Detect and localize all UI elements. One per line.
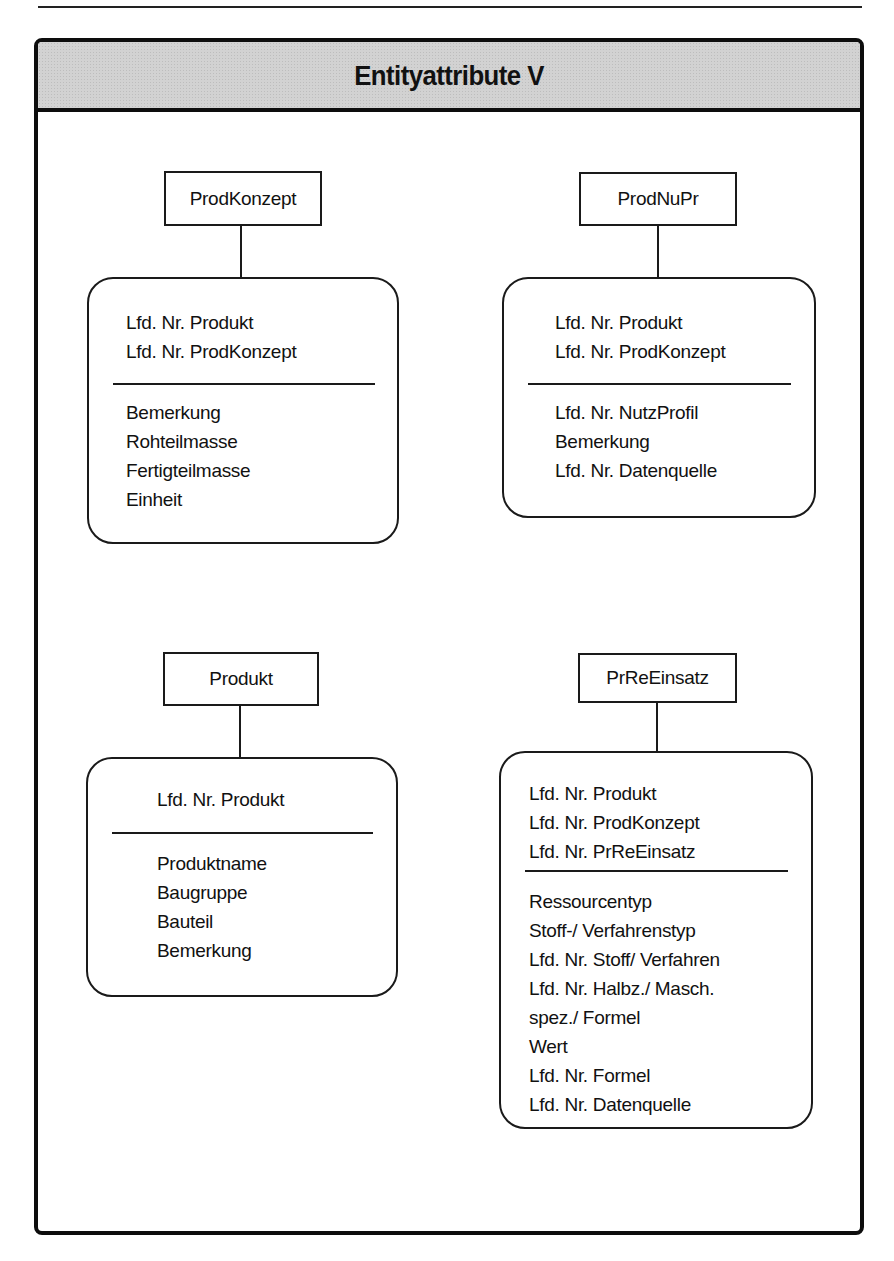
page-top-rule — [38, 6, 862, 8]
attribute-box-prreeinsatz: Lfd. Nr. Produkt Lfd. Nr. ProdKonzept Lf… — [499, 751, 813, 1129]
key-attribute-list: Lfd. Nr. Produkt Lfd. Nr. ProdKonzept — [555, 308, 725, 366]
attribute-list: Lfd. Nr. NutzProfil Bemerkung Lfd. Nr. D… — [555, 398, 717, 485]
attribute-box-prodkonzept: Lfd. Nr. Produkt Lfd. Nr. ProdKonzept Be… — [87, 277, 399, 544]
attribute: Bemerkung — [157, 936, 267, 965]
entity-connector-line — [240, 225, 242, 278]
attribute: Produktname — [157, 849, 267, 878]
attribute: Stoff-/ Verfahrenstyp — [529, 916, 720, 945]
key-attribute: Lfd. Nr. ProdKonzept — [126, 337, 296, 366]
attribute: Fertigteilmasse — [126, 456, 250, 485]
entity-connector-line — [656, 702, 658, 752]
entity-name-box-produkt: Produkt — [163, 652, 319, 706]
attribute: spez./ Formel — [529, 1003, 720, 1032]
entity-connector-line — [657, 225, 659, 278]
attribute: Bemerkung — [555, 427, 717, 456]
key-divider — [113, 383, 375, 385]
entity-name-box-prodnupr: ProdNuPr — [579, 172, 737, 226]
key-attribute: Lfd. Nr. PrReEinsatz — [529, 837, 699, 866]
attribute: Lfd. Nr. Formel — [529, 1061, 720, 1090]
entity-name: ProdNuPr — [617, 188, 698, 210]
attribute: Einheit — [126, 485, 250, 514]
key-attribute-list: Lfd. Nr. Produkt Lfd. Nr. ProdKonzept — [126, 308, 296, 366]
key-divider — [112, 832, 373, 834]
key-attribute: Lfd. Nr. ProdKonzept — [529, 808, 699, 837]
entity-name-box-prreeinsatz: PrReEinsatz — [578, 653, 737, 703]
key-attribute-list: Lfd. Nr. Produkt — [157, 785, 284, 814]
attribute: Lfd. Nr. NutzProfil — [555, 398, 717, 427]
attribute-list: Ressourcentyp Stoff-/ Verfahrenstyp Lfd.… — [529, 887, 720, 1119]
attribute-box-produkt: Lfd. Nr. Produkt Produktname Baugruppe B… — [86, 757, 398, 997]
attribute: Rohteilmasse — [126, 427, 250, 456]
key-divider — [525, 870, 788, 872]
attribute: Ressourcentyp — [529, 887, 720, 916]
attribute: Baugruppe — [157, 878, 267, 907]
key-attribute: Lfd. Nr. Produkt — [529, 779, 699, 808]
attribute: Lfd. Nr. Datenquelle — [555, 456, 717, 485]
key-attribute: Lfd. Nr. ProdKonzept — [555, 337, 725, 366]
attribute: Lfd. Nr. Halbz./ Masch. — [529, 974, 720, 1003]
entity-connector-line — [239, 705, 241, 758]
attribute: Wert — [529, 1032, 720, 1061]
attribute: Bauteil — [157, 907, 267, 936]
frame-header: Entityattribute V — [38, 42, 860, 112]
entity-name: PrReEinsatz — [606, 667, 708, 689]
entity-name: ProdKonzept — [190, 188, 297, 210]
key-attribute: Lfd. Nr. Produkt — [126, 308, 296, 337]
diagram-title: Entityattribute V — [354, 60, 544, 92]
attribute: Bemerkung — [126, 398, 250, 427]
attribute-list: Bemerkung Rohteilmasse Fertigteilmasse E… — [126, 398, 250, 514]
attribute: Lfd. Nr. Datenquelle — [529, 1090, 720, 1119]
entity-name-box-prodkonzept: ProdKonzept — [164, 171, 322, 226]
key-attribute: Lfd. Nr. Produkt — [157, 785, 284, 814]
key-attribute-list: Lfd. Nr. Produkt Lfd. Nr. ProdKonzept Lf… — [529, 779, 699, 866]
attribute-list: Produktname Baugruppe Bauteil Bemerkung — [157, 849, 267, 965]
key-divider — [528, 383, 791, 385]
attribute-box-prodnupr: Lfd. Nr. Produkt Lfd. Nr. ProdKonzept Lf… — [502, 277, 816, 518]
key-attribute: Lfd. Nr. Produkt — [555, 308, 725, 337]
attribute: Lfd. Nr. Stoff/ Verfahren — [529, 945, 720, 974]
entity-name: Produkt — [209, 668, 272, 690]
